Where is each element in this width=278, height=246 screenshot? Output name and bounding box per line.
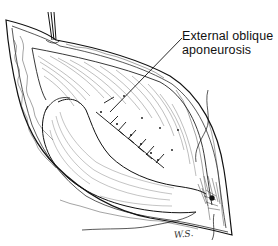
external-oblique-aponeurosis-label: External oblique aponeurosis — [182, 29, 273, 57]
label-line-2: aponeurosis — [182, 43, 273, 57]
label-leader-line — [110, 38, 182, 112]
interrupted-suture-line — [96, 95, 179, 168]
inguinal-shadow — [198, 176, 220, 210]
label-line-1: External oblique — [182, 29, 273, 43]
artist-signature: W.S. — [174, 228, 194, 240]
spermatic-cord — [42, 98, 206, 213]
fat-layer-hatching — [14, 36, 224, 229]
